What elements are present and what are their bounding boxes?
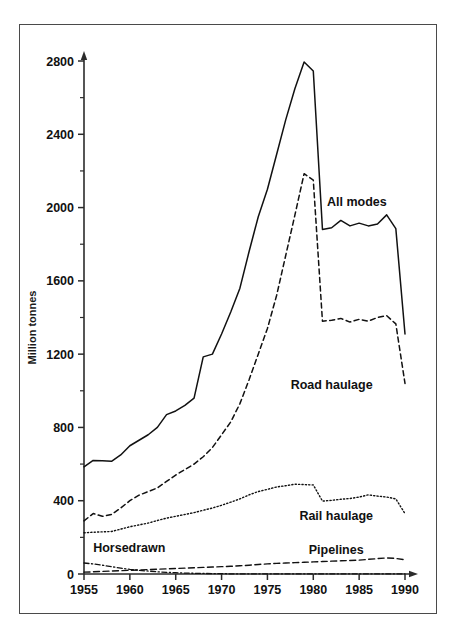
y-tick-label: 0 bbox=[67, 568, 74, 582]
y-tick-label: 2000 bbox=[46, 201, 74, 215]
x-tick-label: 1960 bbox=[116, 583, 144, 597]
y-axis-title: Million tonnes bbox=[26, 291, 38, 365]
x-axis-arrow bbox=[409, 571, 418, 577]
series-label-horsedrawn: Horsedrawn bbox=[93, 541, 165, 555]
x-tick-label: 1990 bbox=[391, 583, 419, 597]
x-tick-label: 1970 bbox=[208, 583, 236, 597]
y-tick-label: 800 bbox=[53, 421, 74, 435]
series-label-pipelines: Pipelines bbox=[309, 543, 364, 557]
series-line-all-modes bbox=[84, 62, 405, 467]
figure-frame: 0400800120016002000240028001955196019651… bbox=[19, 24, 437, 614]
series-line-road-haulage bbox=[84, 174, 405, 521]
y-tick-label: 2800 bbox=[46, 55, 74, 69]
y-tick-label: 1200 bbox=[46, 348, 74, 362]
x-tick-label: 1965 bbox=[162, 583, 190, 597]
y-tick-label: 400 bbox=[53, 494, 74, 508]
y-axis-arrow bbox=[81, 51, 87, 60]
series-label-all-modes: All modes bbox=[327, 195, 387, 209]
y-tick-label: 2400 bbox=[46, 128, 74, 142]
series-line-horsedrawn bbox=[84, 563, 405, 574]
x-tick-label: 1955 bbox=[70, 583, 98, 597]
x-tick-label: 1980 bbox=[299, 583, 327, 597]
y-tick-label: 1600 bbox=[46, 274, 74, 288]
series-label-road-haulage: Road haulage bbox=[291, 378, 373, 392]
labels-layer: 0400800120016002000240028001955196019651… bbox=[26, 55, 419, 598]
transport-tonnage-line-chart: 0400800120016002000240028001955196019651… bbox=[20, 25, 435, 612]
series-label-rail-haulage: Rail haulage bbox=[299, 509, 373, 523]
series-layer bbox=[84, 62, 405, 574]
x-tick-label: 1975 bbox=[254, 583, 282, 597]
x-tick-label: 1985 bbox=[345, 583, 373, 597]
